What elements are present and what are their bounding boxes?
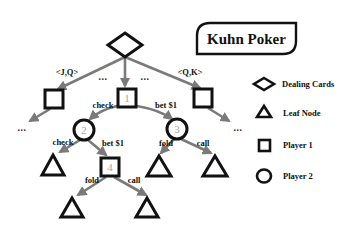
node-1-number: 1 <box>124 92 130 104</box>
edge-label-node1-bet: bet $1 <box>155 100 177 110</box>
deal-label-ellipsis-left: ... <box>99 71 108 82</box>
edge-label-node1-check: check <box>93 100 114 110</box>
diamond-icon <box>254 78 274 90</box>
title-box: Kuhn Poker <box>197 23 296 54</box>
edge-label-node4-call: call <box>128 175 141 185</box>
ellipsis-left: ... <box>18 122 27 133</box>
legend-item-dealing-cards: Dealing Cards <box>254 78 335 90</box>
edge-label-node4-fold: fold <box>85 175 99 185</box>
kuhn-poker-game-tree-diagram: Kuhn Poker <J,Q> ... ... <Q,K> ... ... c… <box>0 0 356 236</box>
ellipsis-right: ... <box>234 122 243 133</box>
node-2-number: 2 <box>81 124 87 136</box>
player1-node-qk <box>194 89 212 107</box>
edge-label-node3-call: call <box>197 138 210 148</box>
leaf-node4-call <box>136 198 158 217</box>
legend: Dealing Cards Leaf Node Player 1 Player … <box>254 78 335 183</box>
leaf-node2-check <box>42 155 64 175</box>
circle-icon <box>257 170 271 183</box>
legend-item-leaf-node: Leaf Node <box>257 106 321 118</box>
root-dealing-cards-diamond <box>108 33 142 57</box>
diagram-title: Kuhn Poker <box>207 31 286 47</box>
legend-label-player-1: Player 1 <box>283 140 313 150</box>
deal-label-jq: <J,Q> <box>56 67 79 77</box>
legend-item-player-2: Player 2 <box>257 170 313 183</box>
edge-qk-continuation <box>208 108 229 121</box>
node-4: 4 <box>101 158 119 176</box>
edge-jq-continuation <box>30 109 50 121</box>
legend-label-dealing-cards: Dealing Cards <box>282 79 335 89</box>
triangle-icon <box>257 106 271 117</box>
edge-label-node3-fold: fold <box>159 138 173 148</box>
leaf-node3-fold <box>147 156 171 176</box>
legend-label-leaf-node: Leaf Node <box>283 108 321 118</box>
deal-label-ellipsis-right: ... <box>141 71 150 82</box>
legend-item-player-1: Player 1 <box>259 140 313 151</box>
player1-node-jq <box>45 90 63 108</box>
node-2: 2 <box>74 120 94 140</box>
node-1: 1 <box>118 89 136 107</box>
legend-label-player-2: Player 2 <box>283 171 313 181</box>
leaf-node4-fold <box>61 198 83 217</box>
leaf-node3-call <box>203 156 227 176</box>
node-3: 3 <box>167 119 187 139</box>
edge-label-node2-check: check <box>53 137 74 147</box>
node-3-number: 3 <box>174 123 180 135</box>
edge-label-node2-bet: bet $1 <box>102 138 124 148</box>
deal-label-qk: <Q,K> <box>177 67 202 77</box>
square-icon <box>259 140 270 151</box>
node-4-number: 4 <box>107 161 113 173</box>
